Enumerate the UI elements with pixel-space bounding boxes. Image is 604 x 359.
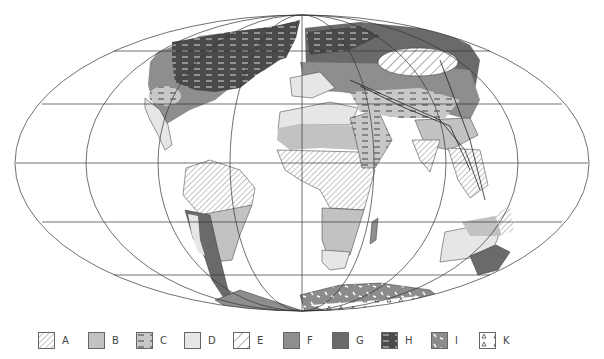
- greenland-H: [266, 20, 300, 62]
- legend-swatch-d: [184, 332, 201, 349]
- legend-label-i: I: [455, 335, 458, 346]
- legend-swatch-i: [431, 332, 448, 349]
- legend-item-k: K: [479, 332, 510, 349]
- legend: A B C D E F G H: [0, 332, 604, 352]
- legend-item-i: I: [431, 332, 458, 349]
- great-plains-C: [149, 86, 181, 106]
- legend-label-c: C: [160, 335, 167, 346]
- graticule: [15, 15, 589, 311]
- legend-label-a: A: [62, 335, 69, 346]
- world-map: [0, 0, 604, 330]
- legend-swatch-g: [332, 332, 349, 349]
- legend-swatch-b: [88, 332, 105, 349]
- legend-item-a: A: [38, 332, 69, 349]
- legend-item-d: D: [184, 332, 216, 349]
- siberia-E: [378, 48, 458, 76]
- legend-swatch-a: [38, 332, 55, 349]
- legend-swatch-h: [381, 332, 398, 349]
- africa-B-north: [277, 124, 360, 150]
- legend-swatch-e: [233, 332, 250, 349]
- africa-D-south: [322, 250, 350, 270]
- legend-swatch-c: [136, 332, 153, 349]
- legend-label-f: F: [307, 335, 313, 346]
- legend-label-k: K: [503, 335, 510, 346]
- island-arc: [505, 282, 525, 290]
- legend-item-b: B: [88, 332, 119, 349]
- legend-label-h: H: [405, 335, 413, 346]
- legend-label-b: B: [112, 335, 119, 346]
- legend-swatch-k: [479, 332, 496, 349]
- se-asia-A: [448, 148, 488, 198]
- legend-label-g: G: [356, 335, 364, 346]
- legend-item-g: G: [332, 332, 364, 349]
- legend-item-e: E: [233, 332, 263, 349]
- legend-label-e: E: [257, 335, 263, 346]
- legend-swatch-f: [283, 332, 300, 349]
- map-figure: A B C D E F G H: [0, 0, 604, 359]
- legend-item-f: F: [283, 332, 313, 349]
- legend-item-h: H: [381, 332, 413, 349]
- legend-label-d: D: [208, 335, 216, 346]
- india-A: [412, 140, 440, 172]
- legend-item-c: C: [136, 332, 167, 349]
